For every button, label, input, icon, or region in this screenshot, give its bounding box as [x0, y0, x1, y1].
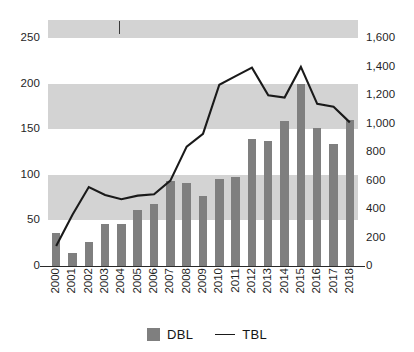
legend-label-dbl: DBL [167, 327, 193, 342]
y-axis-right-tick-label: 1,000 [366, 118, 395, 130]
y-axis-right-tick-label: 1,400 [366, 61, 395, 73]
chart-container: 050100150200250 200020012002200320042005… [0, 0, 414, 352]
y-axis-right-tick-label: 600 [366, 175, 386, 187]
x-axis-tick-label: 2010 [213, 268, 225, 294]
plot-area [48, 20, 358, 266]
x-axis-tick-label: 2000 [50, 268, 62, 294]
x-axis-tick-label: 2015 [295, 268, 307, 294]
legend-square-swatch-icon [147, 328, 160, 341]
x-axis-tick-label: 2014 [279, 268, 291, 294]
x-axis-tick-label: 2007 [164, 268, 176, 294]
legend-label-tbl: TBL [242, 327, 267, 342]
x-axis-tick-label: 2006 [148, 268, 160, 294]
y-axis-right-tick-label: 800 [366, 146, 386, 158]
y-axis-left-tick-label: 50 [27, 215, 40, 227]
x-axis-tick-label: 2012 [246, 268, 258, 294]
x-axis-labels: 2000200120022003200420052006200720082009… [48, 268, 358, 314]
y-axis-left-tick-label: 200 [21, 78, 41, 90]
y-axis-right-tick-label: 200 [366, 232, 386, 244]
x-axis-tick-label: 2004 [115, 268, 127, 294]
x-axis-tick-label: 2002 [83, 268, 95, 294]
chart-legend: DBL TBL [0, 322, 414, 346]
x-axis-tick-label: 2001 [66, 268, 78, 294]
y-axis-left-tick-label: 100 [21, 169, 41, 181]
y-axis-right-tick-label: 0 [366, 260, 373, 272]
y-axis-left-baseline-tick [40, 266, 48, 267]
line-series-tbl [48, 20, 358, 266]
stray-tick-mark [119, 21, 120, 34]
x-axis-tick-label: 2016 [311, 268, 323, 294]
x-axis-tick-label: 2011 [230, 268, 242, 293]
y-axis-right: 02004006008001,0001,2001,4001,600 [362, 0, 414, 352]
y-axis-left: 050100150200250 [0, 0, 46, 352]
y-axis-right-tick-label: 1,600 [366, 33, 395, 45]
x-axis-tick-label: 2018 [344, 268, 356, 294]
x-axis-line [40, 266, 362, 267]
y-axis-right-tick-label: 400 [366, 203, 386, 215]
legend-item-tbl[interactable]: TBL [215, 327, 267, 342]
y-axis-left-tick-label: 150 [21, 124, 41, 136]
y-axis-right-tick-label: 1,200 [366, 90, 395, 102]
x-axis-tick-label: 2008 [181, 268, 193, 294]
x-axis-tick-label: 2009 [197, 268, 209, 294]
legend-line-swatch-icon [215, 334, 235, 335]
x-axis-tick-label: 2017 [328, 268, 340, 294]
x-axis-tick-label: 2013 [262, 268, 274, 294]
y-axis-left-tick-label: 250 [21, 32, 41, 44]
x-axis-tick-label: 2003 [99, 268, 111, 294]
legend-item-dbl[interactable]: DBL [147, 327, 193, 342]
x-axis-tick-label: 2005 [132, 268, 144, 294]
